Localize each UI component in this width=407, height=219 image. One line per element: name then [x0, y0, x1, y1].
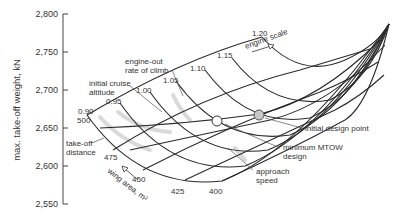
svg-text:take-off: take-off	[66, 139, 93, 148]
wing-area-label: 450	[132, 175, 146, 184]
wing-area-axis-title: wing area, m²	[105, 166, 150, 204]
svg-text:wing area, m²: wing area, m²	[105, 166, 150, 204]
svg-text:speed: speed	[256, 176, 278, 185]
carpet-grid	[87, 24, 389, 182]
svg-text:design: design	[283, 152, 307, 161]
minimum-mtow-point	[212, 116, 222, 126]
svg-text:approach: approach	[256, 167, 289, 176]
engine-scale-label: 0.90	[78, 107, 94, 116]
y-tick-label: 2,800	[35, 9, 58, 19]
wing-area-label: 400	[209, 187, 223, 196]
engine-scale-label: 1.10	[190, 64, 206, 73]
y-tick-label: 2,600	[35, 161, 58, 171]
svg-text:initial cruise: initial cruise	[89, 79, 131, 88]
initial-design-point	[254, 110, 264, 120]
y-axis-label: max. take-off weight, kN	[11, 59, 22, 161]
svg-text:altitude: altitude	[89, 88, 115, 97]
wing-area-label: 425	[171, 187, 185, 196]
wing-area-label: 500	[77, 116, 91, 125]
annotation-takeoff-distance: take-off distance	[66, 138, 104, 157]
y-tick-label: 2,650	[35, 123, 58, 133]
svg-text:distance: distance	[66, 148, 96, 157]
svg-text:engine-out: engine-out	[125, 57, 164, 66]
y-tick-label: 2,550	[35, 199, 58, 209]
annotation-initial-design-point: initial design point	[265, 118, 369, 133]
engine-scale-label: 1.00	[136, 86, 152, 95]
wing-area-label: 475	[104, 153, 118, 162]
engine-scale-label: 1.15	[217, 51, 233, 60]
svg-text:rate of climb: rate of climb	[125, 66, 169, 75]
y-tick-label: 2,700	[35, 85, 58, 95]
y-axis: 2,5502,6002,6502,7002,7502,800 max. take…	[11, 9, 68, 209]
svg-text:minimum MTOW: minimum MTOW	[283, 143, 343, 152]
svg-text:initial design point: initial design point	[305, 124, 369, 133]
engine-scale-label: 0.95	[106, 97, 122, 106]
y-tick-label: 2,750	[35, 47, 58, 57]
carpet-plot: 2,5502,6002,6502,7002,7502,800 max. take…	[0, 0, 407, 219]
engine-scale-label: 1.20	[252, 29, 268, 38]
